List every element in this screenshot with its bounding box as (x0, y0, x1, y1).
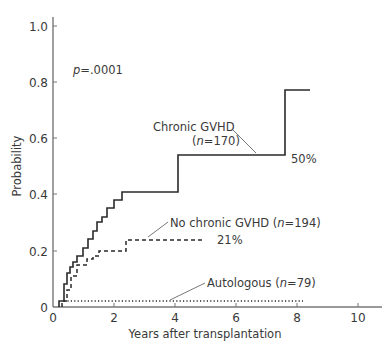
y-tick-0: 0 (40, 301, 48, 315)
x-tick-4: 4 (171, 311, 179, 325)
x-tick-labels: 0 2 4 6 8 10 (49, 311, 365, 325)
y-axis-title: Probability (10, 135, 24, 196)
x-tick-10: 10 (350, 311, 365, 325)
x-tick-0: 0 (49, 311, 57, 325)
no-chronic-gvhd-percent: 21% (217, 233, 243, 247)
x-tick-6: 6 (232, 311, 240, 325)
y-tick-0.2: 0.2 (29, 245, 48, 259)
y-tick-0.4: 0.4 (29, 188, 48, 202)
axes (53, 17, 382, 307)
y-tick-0.8: 0.8 (29, 76, 48, 90)
y-tick-1.0: 1.0 (29, 20, 48, 34)
chronic-gvhd-percent: 50% (291, 152, 317, 166)
chronic-gvhd-label: Chronic GVHD (153, 120, 235, 134)
cumulative-incidence-chart: 1.0 0.8 0.6 0.4 0.2 0 0 2 4 6 8 10 Years… (0, 0, 389, 351)
autologous-leader (170, 283, 205, 300)
x-tick-2: 2 (110, 311, 118, 325)
no-chronic-gvhd-label: No chronic GVHD (n=194) (170, 216, 321, 230)
p-value-annotation: p=.0001 (72, 63, 123, 77)
no-chronic-gvhd-leader (148, 222, 168, 237)
autologous-label: Autologous (n=79) (207, 276, 316, 290)
x-tick-8: 8 (293, 311, 301, 325)
x-axis-title: Years after transplantation (128, 327, 282, 341)
y-tick-0.6: 0.6 (29, 132, 48, 146)
chronic-gvhd-n-label: (n=170) (192, 134, 240, 148)
y-tick-labels: 1.0 0.8 0.6 0.4 0.2 0 (29, 20, 48, 315)
